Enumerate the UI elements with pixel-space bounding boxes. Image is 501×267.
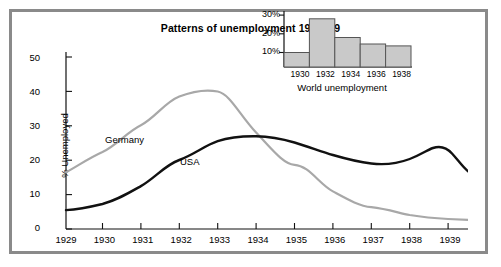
inset-chart: 30% 20% 10% 1930 1932 1934 1936 1938	[252, 5, 412, 100]
x-tick-1939: 1939	[428, 234, 472, 245]
inset-bar-1936	[360, 44, 385, 67]
x-tick-1929: 1929	[44, 234, 88, 245]
inset-plot-svg	[252, 5, 412, 81]
x-tick-1935: 1935	[274, 234, 318, 245]
series-label-germany: Germany	[105, 134, 144, 145]
series-usa-line	[66, 136, 468, 210]
inset-y-tick-marks	[279, 15, 284, 52]
figure-root: Patterns of unemployment 1929–39 % Unemp…	[0, 0, 501, 267]
x-tick-1932: 1932	[159, 234, 203, 245]
series-germany-line	[66, 91, 468, 220]
x-tick-1931: 1931	[121, 234, 165, 245]
inset-bars	[284, 19, 411, 67]
y-tick-20: 20	[18, 154, 40, 165]
x-tick-1934: 1934	[236, 234, 280, 245]
y-tick-10: 10	[18, 188, 40, 199]
inset-bar-1932	[309, 19, 334, 67]
x-tick-1936: 1936	[313, 234, 357, 245]
inset-caption: World unemployment	[274, 82, 410, 93]
inset-bar-1934	[335, 38, 360, 68]
inset-bar-1938	[386, 46, 411, 67]
x-tick-1937: 1937	[351, 234, 395, 245]
y-tick-40: 40	[18, 86, 40, 97]
x-tick-1930: 1930	[82, 234, 126, 245]
y-tick-30: 30	[18, 120, 40, 131]
x-tick-1938: 1938	[390, 234, 434, 245]
series-label-usa: USA	[180, 156, 200, 167]
y-tick-50: 50	[18, 52, 40, 63]
x-tick-marks	[103, 223, 449, 229]
y-tick-marks	[66, 57, 72, 229]
inset-bar-1930	[284, 53, 309, 68]
x-tick-1933: 1933	[198, 234, 242, 245]
y-tick-0: 0	[18, 222, 40, 233]
